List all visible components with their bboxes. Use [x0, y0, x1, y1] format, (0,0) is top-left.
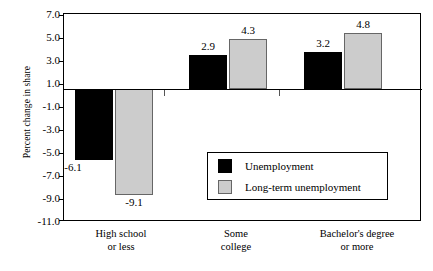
y-tick-mark: [59, 130, 64, 131]
legend-item-unemployment: Unemployment: [218, 159, 313, 173]
legend-item-long-term-unemployment: Long-term unemployment: [218, 180, 361, 194]
bar-value-label: -6.1: [53, 162, 93, 173]
bar-value-label: 3.2: [303, 38, 343, 49]
legend-label: Long-term unemployment: [245, 181, 361, 193]
y-tick-label: 7.0: [16, 9, 60, 20]
y-axis-tick-labels: 7.0 5.0 3.0 1.0 -1.0 -3.0 -5.0 -7.0 -9.0…: [14, 0, 60, 271]
group-separator-tick: [279, 90, 280, 96]
bar-longterm-some-college: [229, 39, 267, 89]
y-tick-mark: [59, 199, 64, 200]
bar-longterm-high-school: [115, 89, 153, 195]
y-tick-mark: [59, 176, 64, 177]
bar-unemployment-high-school: [75, 89, 113, 160]
bar-chart: Percent change in share 7.0 5.0 3.0 1.0 …: [0, 0, 433, 271]
y-tick-label: -9.0: [16, 193, 60, 204]
y-tick-mark: [59, 84, 64, 85]
legend-label: Unemployment: [245, 160, 313, 172]
y-tick-mark: [59, 107, 64, 108]
bar-value-label: -9.1: [114, 197, 154, 208]
y-tick-mark: [59, 38, 64, 39]
x-category-label-some-college: Some college: [178, 227, 294, 253]
group-separator-tick: [164, 90, 165, 96]
legend-swatch-light-icon: [218, 180, 232, 194]
y-tick-label: -1.0: [16, 101, 60, 112]
x-category-label-bachelors: Bachelor's degree or more: [292, 227, 422, 253]
zero-baseline: [64, 89, 422, 90]
y-tick-label: 1.0: [16, 78, 60, 89]
y-tick-mark: [59, 61, 64, 62]
legend-swatch-dark-icon: [218, 159, 232, 173]
chart-legend: Unemployment Long-term unemployment: [207, 152, 388, 200]
bar-value-label: 2.9: [188, 41, 228, 52]
y-tick-label: -5.0: [16, 147, 60, 158]
y-tick-label: -3.0: [16, 124, 60, 135]
x-category-line2: or less: [63, 240, 179, 253]
bar-value-label: 4.8: [343, 19, 383, 30]
x-category-line1: Bachelor's degree: [320, 228, 394, 239]
x-category-line2: college: [178, 240, 294, 253]
y-tick-mark: [59, 153, 64, 154]
y-tick-label: -11.0: [16, 216, 60, 227]
y-tick-label: 5.0: [16, 32, 60, 43]
x-category-line1: Some: [224, 228, 248, 239]
y-tick-mark: [59, 15, 64, 16]
x-category-label-high-school: High school or less: [63, 227, 179, 253]
y-tick-label: 3.0: [16, 55, 60, 66]
x-category-line2: or more: [292, 240, 422, 253]
bar-longterm-bachelors: [344, 33, 382, 89]
x-category-line1: High school: [95, 228, 146, 239]
bar-unemployment-bachelors: [304, 52, 342, 89]
bar-unemployment-some-college: [189, 55, 227, 89]
y-tick-mark: [59, 220, 64, 221]
bar-value-label: 4.3: [228, 25, 268, 36]
